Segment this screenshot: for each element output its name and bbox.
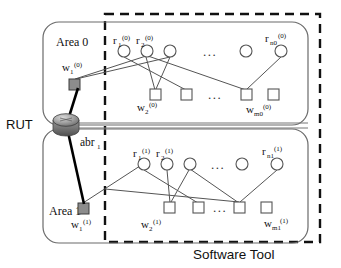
link-node-wk-1[interactable] bbox=[234, 202, 245, 213]
edge-r3-0 bbox=[156, 57, 170, 89]
label-w2-0-base: w bbox=[137, 101, 145, 113]
edge-r2-1 bbox=[167, 170, 170, 203]
label-w2-0-sup: (0) bbox=[149, 101, 158, 109]
label-w1-0-sup: (0) bbox=[74, 61, 83, 69]
abr-label-base: abr bbox=[80, 136, 95, 148]
edge-r1-1 bbox=[144, 170, 198, 203]
label-r2-1-sub: 2 bbox=[161, 154, 165, 162]
area-0-link-nodes: ... bbox=[150, 87, 279, 102]
label-w2-1-sup: (1) bbox=[153, 218, 162, 226]
edge-rn0-0 bbox=[247, 57, 281, 89]
link-node-w3-1[interactable] bbox=[193, 202, 204, 213]
label-w2-1-base: w bbox=[141, 218, 149, 230]
link-node-w1-1[interactable] bbox=[78, 203, 89, 214]
rut-router-icon[interactable] bbox=[53, 114, 79, 136]
router-node-rk-0[interactable] bbox=[240, 45, 252, 57]
label-wm0-0-sub: m0 bbox=[254, 110, 263, 118]
link-node-wm1-1[interactable] bbox=[261, 202, 272, 213]
rut-label: RUT bbox=[6, 117, 33, 132]
label-r1-1-sup: (1) bbox=[142, 147, 151, 155]
label-r2-0-base: r bbox=[136, 34, 140, 46]
label-wm1-1-base: w bbox=[264, 217, 272, 229]
label-wm0-0-base: w bbox=[246, 103, 254, 115]
area-1-edges bbox=[83, 164, 277, 203]
router-node-r3-1[interactable] bbox=[184, 158, 196, 170]
area-0-label: Area 0 bbox=[56, 35, 88, 49]
edge-w1-0-to-r2-0 bbox=[75, 56, 146, 79]
label-rn1-1-base: r bbox=[262, 145, 266, 157]
network-topology-diagram: Area 0 Area 1 ... bbox=[0, 0, 341, 268]
label-rn1-1-sup: (1) bbox=[274, 145, 283, 153]
label-w1-1-base: w bbox=[71, 218, 79, 230]
area-0-links-ellipsis: ... bbox=[208, 87, 222, 102]
label-w1-0-base: w bbox=[62, 61, 70, 73]
area-1-link-nodes: ... bbox=[164, 200, 272, 215]
label-w1-1-sup: (1) bbox=[83, 218, 92, 226]
area-1-links-ellipsis: ... bbox=[213, 200, 227, 215]
figure-container: Area 0 Area 1 ... bbox=[0, 0, 341, 268]
link-node-wm0-0[interactable] bbox=[268, 89, 279, 100]
label-w1-1-sub: 1 bbox=[79, 225, 83, 233]
label-r1-0-sup: (0) bbox=[122, 34, 131, 42]
label-wm1-1-sup: (1) bbox=[280, 217, 289, 225]
label-w1-0-sub: 1 bbox=[70, 68, 74, 76]
area-0-labels: r 1 (0) r 2 (0) r n0 (0) w 1 (0) w 2 (0)… bbox=[62, 32, 287, 118]
area-1-routers-ellipsis: ... bbox=[211, 157, 225, 172]
label-r1-0-sub: 1 bbox=[118, 41, 122, 49]
label-w2-0-sub: 2 bbox=[145, 108, 149, 116]
area-0-routers-ellipsis: ... bbox=[203, 44, 217, 59]
software-tool-caption: Software Tool bbox=[193, 247, 275, 262]
label-w2-1-sub: 2 bbox=[149, 225, 153, 233]
label-rn1-1-sub: n1 bbox=[267, 152, 275, 160]
area-1-label: Area 1 bbox=[49, 204, 81, 218]
link-node-w2-1[interactable] bbox=[164, 202, 175, 213]
link-node-wk-0[interactable] bbox=[241, 89, 252, 100]
label-r1-0-base: r bbox=[113, 34, 117, 46]
link-node-w3-0[interactable] bbox=[181, 89, 192, 100]
label-r1-1-sub: 1 bbox=[138, 154, 142, 162]
abr-label-sub: 1 bbox=[97, 143, 101, 151]
router-node-r3-0[interactable] bbox=[164, 45, 176, 57]
label-r2-0-sup: (0) bbox=[145, 34, 154, 42]
label-rn0-0-sub: n0 bbox=[270, 39, 278, 47]
label-r2-0-sub: 2 bbox=[141, 41, 145, 49]
label-rn0-0-sup: (0) bbox=[278, 32, 287, 40]
edge-rn1-1 bbox=[240, 170, 277, 202]
label-wm0-0-sup: (0) bbox=[263, 103, 272, 111]
router-node-rk-1[interactable] bbox=[236, 158, 248, 170]
label-wm1-1-sub: m1 bbox=[272, 224, 281, 232]
label-r1-1-base: r bbox=[133, 147, 137, 159]
link-node-w2-0[interactable] bbox=[150, 89, 161, 100]
edge-w1-0-to-r3-0 bbox=[76, 57, 170, 79]
edge-r1-0 bbox=[124, 57, 186, 90]
label-r2-1-base: r bbox=[156, 147, 160, 159]
label-r2-1-sup: (1) bbox=[165, 147, 174, 155]
area-1-router-nodes: ... bbox=[138, 157, 283, 172]
edge-w1-1-to-r1-1 bbox=[83, 164, 143, 203]
label-rn0-0-base: r bbox=[265, 32, 269, 44]
